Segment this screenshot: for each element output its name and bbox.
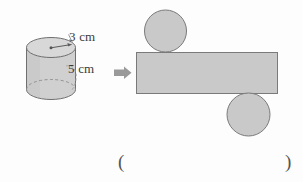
net-lateral-rectangle xyxy=(137,53,278,94)
net-top-circle xyxy=(145,10,187,52)
geometry-figure xyxy=(0,0,303,182)
cylinder-net-figure xyxy=(137,10,278,136)
net-bottom-circle xyxy=(227,93,270,136)
exercise-figure-page: 3 cm 5 cm ( ) xyxy=(0,0,303,182)
answer-blank-close-paren: ) xyxy=(285,152,291,171)
height-label: 5 cm xyxy=(68,61,94,77)
arrow-right-icon xyxy=(114,67,132,80)
radius-label: 3 cm xyxy=(69,29,95,45)
answer-blank-open-paren: ( xyxy=(118,152,124,171)
